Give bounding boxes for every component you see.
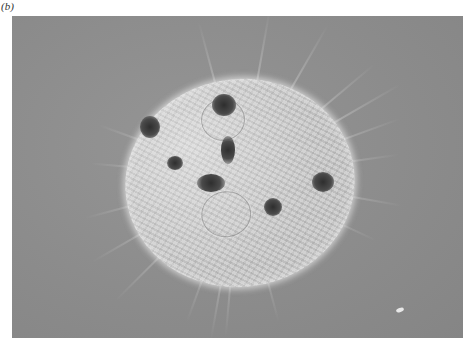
debris-speck: [396, 307, 405, 313]
nucleus: [264, 198, 282, 216]
nucleus: [312, 172, 334, 192]
nucleus: [197, 174, 225, 192]
nucleus: [140, 116, 160, 138]
vacuole: [198, 188, 254, 241]
nucleus: [212, 94, 236, 116]
panel-label: (b): [1, 0, 14, 13]
micrograph: [12, 16, 463, 338]
nucleus: [167, 156, 183, 170]
nucleus: [221, 136, 235, 164]
